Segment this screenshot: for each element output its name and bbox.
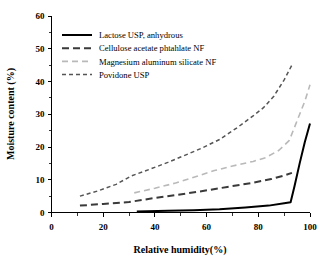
- x-tick-label: 40: [150, 222, 160, 232]
- series-line-1: [80, 173, 292, 206]
- y-axis-major-ticks: [48, 16, 52, 213]
- y-tick-label: 50: [36, 44, 46, 54]
- y-tick-label: 0: [40, 208, 45, 218]
- x-tick-label: 80: [254, 222, 264, 232]
- legend-label-3: Povidone USP: [99, 70, 150, 80]
- legend-label-2: Magnesium aluminum silicate NF: [99, 57, 216, 67]
- series-line-2: [134, 85, 310, 193]
- y-tick-label: 40: [36, 77, 46, 87]
- chart-canvas: 0102030405060 020406080100 Relative humi…: [0, 0, 326, 270]
- y-axis-tick-labels: 0102030405060: [36, 11, 46, 218]
- chart-figure: 0102030405060 020406080100 Relative humi…: [0, 0, 326, 270]
- y-axis-title: Moisture content (%): [5, 68, 17, 160]
- legend-label-0: Lactose USP, anhydrous: [99, 30, 183, 40]
- chart-legend: Lactose USP, anhydrousCellulose acetate …: [62, 30, 216, 80]
- y-tick-label: 10: [36, 175, 46, 185]
- data-series-group: [80, 65, 310, 211]
- y-tick-label: 20: [36, 142, 46, 152]
- x-tick-label: 60: [202, 222, 212, 232]
- x-tick-label: 100: [303, 222, 317, 232]
- x-tick-label: 0: [49, 222, 54, 232]
- legend-label-1: Cellulose acetate phtahlate NF: [99, 43, 204, 53]
- x-axis-title: Relative humidity(%): [133, 244, 226, 256]
- y-tick-label: 30: [36, 109, 46, 119]
- x-tick-label: 20: [99, 222, 109, 232]
- x-axis-tick-labels: 020406080100: [49, 222, 317, 232]
- series-line-3: [80, 65, 292, 196]
- y-tick-label: 60: [36, 11, 46, 21]
